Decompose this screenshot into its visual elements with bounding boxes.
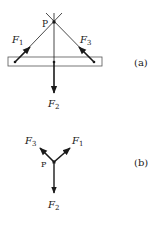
point-p (53, 21, 56, 24)
f1-label-b: F1 (71, 135, 83, 148)
f3-label: F3 (79, 34, 91, 47)
figure-b: P F3 F1 F2 (b) (24, 135, 148, 212)
f2-label: F2 (47, 98, 59, 111)
force-diagram: P F1 F3 F2 (a) P F3 F1 F2 (b) (0, 0, 160, 227)
figure-a-label: (a) (134, 57, 148, 68)
figure-a: P F1 F3 F2 (a) (8, 13, 148, 111)
point-p-label: P (42, 19, 48, 29)
f1-arrow-b (54, 148, 70, 162)
f2-label-b: F2 (47, 199, 59, 212)
f3-label-b: F3 (24, 135, 36, 148)
figure-b-label: (b) (134, 157, 148, 168)
f1-label: F1 (11, 34, 23, 47)
point-p-b-label: P (41, 160, 47, 169)
f3-arrow (79, 47, 94, 62)
f1-arrow (15, 47, 30, 62)
